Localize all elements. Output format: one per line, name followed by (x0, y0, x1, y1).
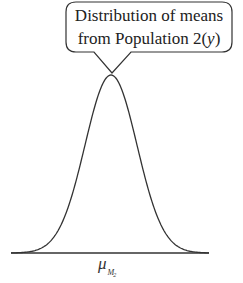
normal-curve (11, 75, 209, 253)
callout-line-1: Distribution of means (66, 4, 232, 27)
mu-symbol: μ (98, 254, 107, 273)
callout-text: Distribution of means from Population 2(… (66, 4, 232, 50)
callout-close-paren: ) (215, 29, 221, 48)
mu-subsubscript: 2 (113, 272, 116, 278)
callout-variable: y (207, 29, 215, 48)
callout-line-2: from Population 2(y) (66, 27, 232, 50)
callout-line-2-text: from Population 2( (78, 29, 207, 48)
mean-label: μM2 (98, 254, 116, 274)
